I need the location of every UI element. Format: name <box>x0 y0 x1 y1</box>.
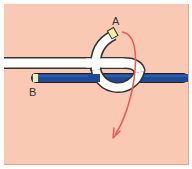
rope-end-b-tip <box>33 74 38 82</box>
label-end-b: B <box>29 87 36 98</box>
label-end-a: A <box>112 16 119 27</box>
blue-rope-over-segment <box>88 74 100 82</box>
knot-diagram <box>0 0 192 169</box>
